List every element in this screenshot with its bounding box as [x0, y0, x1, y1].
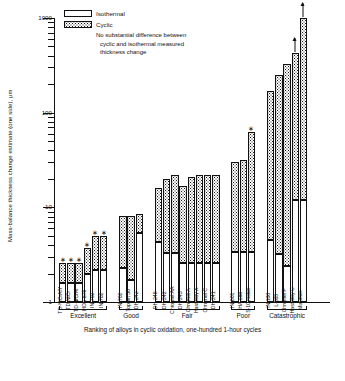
alloy-label: L-605	[274, 293, 279, 306]
plot-area: ∗TD-NiCrAlY∗TD-NiCr∗TD-NiCrAl∗HOS-875∗IN…	[55, 18, 330, 302]
no-difference-marker: ∗	[248, 126, 254, 131]
alloy-bar: Chromel P	[283, 64, 290, 302]
y-tick-minor	[48, 127, 54, 128]
alloy-bar: Tophet 30	[127, 216, 134, 303]
group-label: Poor	[237, 312, 251, 319]
alloy-bar: IN 100	[267, 91, 274, 302]
alloy-bar: ∗S-10 nickel	[248, 132, 255, 302]
cyclic-segment	[92, 236, 99, 270]
group-label: Catastrophic	[269, 312, 305, 319]
cyclic-segment	[67, 263, 74, 283]
y-tick-label: 1000	[38, 15, 52, 21]
cyclic-segment	[204, 175, 211, 263]
alloy-bar: DH-242	[136, 214, 143, 302]
alloy-bar: DH-243	[179, 186, 186, 302]
alloy-bar: Hastelloy X	[196, 175, 203, 302]
cyclic-segment	[179, 186, 186, 263]
y-tick-minor	[48, 22, 54, 23]
y-tick-minor	[48, 162, 54, 163]
cyclic-segment	[196, 175, 203, 263]
y-tick-minor	[48, 122, 54, 123]
cyclic-segment	[275, 75, 282, 254]
cyclic-segment	[119, 216, 126, 268]
y-tick-label: 100	[42, 110, 52, 116]
alloy-bar: Chromel AA	[171, 175, 178, 302]
cyclic-segment	[231, 162, 238, 252]
y-tick-minor	[48, 222, 54, 223]
cyclic-segment	[163, 179, 170, 253]
alloy-bar: DH-242	[163, 179, 170, 302]
y-tick-minor	[48, 257, 54, 258]
figure-root: Isothermal Cyclic No substantial differe…	[0, 0, 345, 381]
no-difference-marker: ∗	[84, 242, 90, 247]
cyclic-segment	[188, 177, 195, 263]
y-tick-label: 1	[49, 299, 52, 305]
cyclic-segment	[136, 214, 143, 233]
y-tick-minor	[48, 141, 54, 142]
legend-label-isothermal: Isothermal	[96, 10, 125, 17]
y-tick-minor	[48, 33, 54, 34]
group-bracket	[231, 306, 255, 310]
alloy-bar: Chromel A	[188, 177, 195, 302]
cyclic-segment	[248, 132, 255, 251]
alloy-bar: DH-241	[212, 175, 219, 302]
y-tick-minor	[48, 228, 54, 229]
y-tick-minor	[48, 212, 54, 213]
cyclic-segment	[84, 248, 91, 273]
cyclic-segment	[300, 18, 307, 200]
no-difference-marker: ∗	[101, 230, 107, 235]
cyclic-segment	[127, 216, 134, 281]
group-bracket	[59, 306, 107, 310]
y-tick-minor	[48, 134, 54, 135]
alloy-bar: L-605	[275, 75, 282, 302]
alloy-bar: ∗IN-702	[100, 236, 107, 302]
group-bracket	[119, 306, 143, 310]
y-tick-minor	[48, 179, 54, 180]
cyclic-segment	[100, 236, 107, 270]
y-tick-minor	[48, 274, 54, 275]
y-tick-minor	[48, 56, 54, 57]
no-difference-marker: ∗	[68, 257, 74, 262]
cyclic-segment	[292, 53, 299, 200]
group-label: Fair	[182, 312, 193, 319]
y-tick-minor	[48, 150, 54, 151]
y-tick-minor	[48, 245, 54, 246]
group-label: Excellent	[70, 312, 96, 319]
alloy-bar: DH-245	[155, 188, 162, 302]
alloy-bar: IN-601	[231, 162, 238, 302]
x-axis-label: Ranking of alloys in cyclic oxidation, o…	[0, 326, 345, 333]
group-bracket	[155, 306, 220, 310]
y-tick-minor	[48, 217, 54, 218]
cyclic-segment	[155, 188, 162, 242]
cyclic-segment	[171, 175, 178, 253]
y-tick-label: 10	[45, 204, 52, 210]
no-difference-marker: ∗	[92, 230, 98, 235]
y-tick-minor	[48, 39, 54, 40]
cyclic-segment	[75, 263, 82, 283]
isothermal-swatch-icon	[64, 10, 92, 17]
group-label: Good	[123, 312, 139, 319]
alloy-bar: HA 188	[240, 160, 247, 302]
group-bracket	[267, 306, 307, 310]
y-axis-label: Mass-balance thickness change estimate (…	[7, 92, 13, 242]
cyclic-segment	[267, 91, 274, 240]
off-scale-arrow-icon	[295, 38, 296, 52]
no-difference-marker: ∗	[76, 257, 82, 262]
y-tick-minor	[48, 117, 54, 118]
y-tick-minor	[48, 27, 54, 28]
y-tick-minor	[48, 84, 54, 85]
no-difference-marker: ∗	[60, 257, 66, 262]
off-scale-arrow-icon	[303, 3, 304, 17]
y-tick-minor	[48, 67, 54, 68]
y-tick-minor	[48, 236, 54, 237]
legend-row-isothermal: Isothermal	[64, 9, 186, 18]
cyclic-segment	[283, 64, 290, 266]
alloy-bar: Hastelloy-C	[292, 53, 299, 302]
isothermal-segment	[300, 200, 307, 302]
alloy-bar: Chromel C	[204, 175, 211, 302]
alloy-bar: Multimet	[300, 18, 307, 302]
y-tick-minor	[48, 46, 54, 47]
cyclic-segment	[59, 263, 66, 283]
cyclic-segment	[240, 160, 247, 252]
cyclic-segment	[212, 175, 219, 263]
